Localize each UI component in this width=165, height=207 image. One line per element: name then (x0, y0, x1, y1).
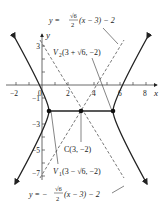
vertex-v2-label: V 2 (3 + √6, −2) (53, 48, 101, 58)
svg-text:4: 4 (92, 89, 96, 98)
svg-text:(x − 3) − 2: (x − 3) − 2 (64, 190, 100, 199)
asymptote-equation-top: y = √6 2 (x − 3) − 2 (48, 12, 115, 28)
svg-text:y =: y = (48, 16, 60, 25)
x-tick-labels: −2 0 2 4 6 8 (10, 89, 147, 98)
svg-text:2: 2 (66, 89, 70, 98)
vertex-v1-point (47, 109, 52, 114)
center-point (79, 109, 84, 114)
left-branch (15, 38, 49, 184)
x-axis-label: x (153, 88, 158, 98)
right-branch (113, 38, 147, 184)
y-axis (42, 34, 45, 180)
svg-text:y = −: y = − (28, 190, 47, 199)
hyperbola-diagram: y x −2 0 2 4 6 8 3 −1 −3 −5 −7 y = √6 2 … (0, 0, 165, 207)
svg-text:6: 6 (118, 89, 122, 98)
asymptote-equation-bottom: y = − √6 2 (x − 3) − 2 (28, 185, 100, 202)
svg-text:2: 2 (71, 21, 74, 28)
vertex-v2-point (111, 109, 116, 114)
svg-text:8: 8 (143, 89, 147, 98)
svg-text:3: 3 (36, 42, 40, 51)
svg-text:(x − 3) − 2: (x − 3) − 2 (79, 16, 115, 25)
vertex-v1-label: V 1 (3 − √6, −2) (53, 167, 101, 177)
svg-text:(3 + √6, −2): (3 + √6, −2) (62, 48, 101, 57)
svg-text:2: 2 (56, 195, 59, 202)
svg-text:(3 − √6, −2): (3 − √6, −2) (62, 167, 101, 176)
svg-text:√6: √6 (70, 12, 78, 19)
svg-text:−3: −3 (32, 120, 40, 129)
svg-text:−5: −5 (32, 146, 40, 155)
svg-text:−7: −7 (32, 169, 40, 178)
y-tick-labels: 3 −1 −3 −5 −7 (32, 42, 40, 178)
x-axis (6, 82, 157, 85)
svg-text:−2: −2 (10, 89, 18, 98)
center-label: C(3, −2) (64, 145, 92, 154)
svg-text:√6: √6 (55, 185, 63, 192)
svg-text:−1: −1 (32, 94, 40, 103)
y-axis-label: y (45, 30, 50, 40)
